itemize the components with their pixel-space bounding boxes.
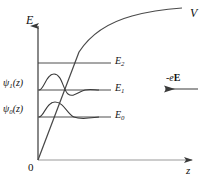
energy-level-label-E1-sub: 1: [121, 87, 124, 94]
energy-level-label-E0: E0: [115, 110, 125, 122]
origin-label: 0: [28, 162, 34, 173]
wavefunction-label-psi0: ψ0(z): [3, 104, 23, 116]
wavefunction-label-psi1: ψ1(z): [3, 78, 23, 90]
potential-label: V: [190, 7, 197, 19]
energy-level-label-E1: E1: [115, 83, 125, 95]
field-label-prefix: -e: [166, 72, 174, 83]
figure-canvas: E z 0 V E2 E1 E0 ψ1(z) ψ0(z) -eE: [0, 0, 205, 179]
energy-level-label-E0-sub: 0: [121, 114, 124, 121]
x-axis-label: z: [186, 165, 190, 176]
energy-level-label-E2-sub: 2: [121, 60, 124, 67]
wavefunction-label-psi1-arg: (z): [13, 77, 24, 88]
energy-level-label-E2: E2: [115, 56, 125, 68]
wavefunction-curve-psi0: [39, 102, 99, 119]
potential-curve: [38, 8, 182, 160]
wavefunction-label-psi0-arg: (z): [13, 103, 24, 114]
field-label: -eE: [166, 73, 180, 83]
field-label-symbol: E: [174, 72, 181, 83]
y-axis-label: E: [26, 14, 33, 26]
